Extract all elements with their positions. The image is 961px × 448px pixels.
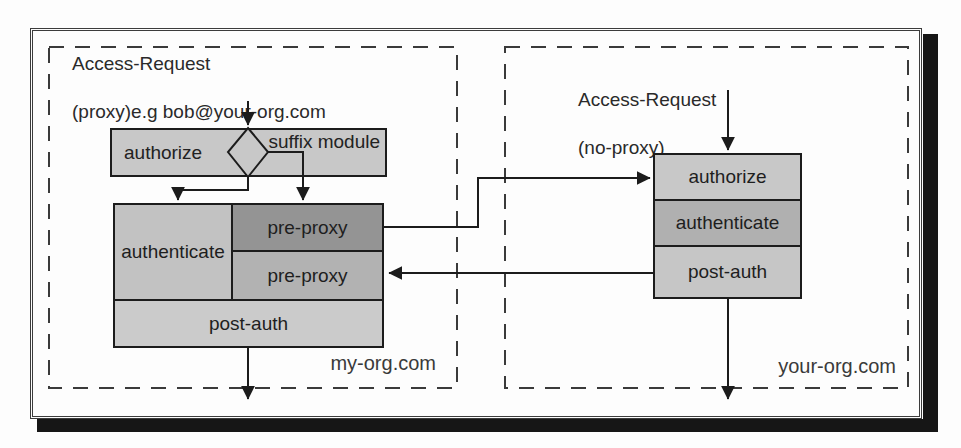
your-org-server-box: authorize authenticate post-auth <box>653 153 802 299</box>
your-org-post-auth-label: post-auth <box>688 261 767 283</box>
access-request-noproxy-label: Access-Request (no-proxy) <box>578 88 716 160</box>
authorize-bar-label: authorize <box>124 130 202 175</box>
my-org-pre-proxy-out-label: pre-proxy <box>267 217 347 239</box>
my-org-pre-proxy-in-label: pre-proxy <box>267 265 347 287</box>
access-request-noproxy-line1: Access-Request <box>578 89 716 110</box>
my-org-authenticate-cell: authenticate <box>115 205 233 299</box>
your-org-authenticate-label: authenticate <box>676 212 780 234</box>
access-request-proxy-line2: (proxy)e.g bob@your-org.com <box>72 101 326 122</box>
your-org-post-auth-cell: post-auth <box>655 247 800 297</box>
my-org-pre-proxy-in-cell: pre-proxy <box>233 252 382 299</box>
my-org-authenticate-label: authenticate <box>121 241 225 263</box>
your-org-authorize-cell: authorize <box>655 155 800 201</box>
access-request-noproxy-line2: (no-proxy) <box>578 137 665 158</box>
your-org-zone-label: your-org.com <box>740 355 896 378</box>
authorize-suffix-bar: authorize suffix module <box>110 128 387 177</box>
frame-shadow-right <box>923 34 938 432</box>
your-org-authorize-label: authorize <box>688 166 766 188</box>
my-org-server-box: authenticate pre-proxy pre-proxy post-au… <box>113 203 384 348</box>
figure-canvas: Access-Request (proxy)e.g bob@your-org.c… <box>0 0 961 448</box>
access-request-proxy-line1: Access-Request <box>72 53 210 74</box>
suffix-module-label: suffix module <box>268 131 380 153</box>
my-org-zone-label: my-org.com <box>280 352 436 375</box>
access-request-proxy-label: Access-Request (proxy)e.g bob@your-org.c… <box>72 52 326 124</box>
my-org-pre-proxy-out-cell: pre-proxy <box>233 205 382 252</box>
frame-shadow-bottom <box>37 419 938 432</box>
my-org-post-auth-cell: post-auth <box>115 299 382 346</box>
my-org-post-auth-label: post-auth <box>209 313 288 335</box>
your-org-authenticate-cell: authenticate <box>655 201 800 247</box>
